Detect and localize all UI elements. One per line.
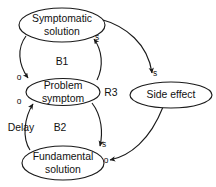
loop-label-b1: B1 — [56, 56, 69, 67]
node-label-line2: solution — [45, 164, 81, 175]
loop-label-b2: B2 — [54, 122, 67, 133]
link-symptomatic-to-side-effect — [100, 19, 152, 73]
polarity-label-s-symptomatic-in: s — [95, 32, 99, 42]
link-side-effect-to-fundamental — [110, 107, 163, 160]
node-label-line1: Problem — [44, 80, 83, 91]
delay-annotation: Delay — [8, 122, 35, 133]
node-label-line2: solution — [44, 26, 80, 37]
link-problem-to-fundamental — [92, 103, 101, 146]
node-problem-symptom[interactable]: Problem symptom — [26, 79, 100, 106]
node-side-effect[interactable]: Side effect — [130, 82, 212, 108]
node-label-line1: Symptomatic — [32, 13, 92, 24]
node-symptomatic-solution[interactable]: Symptomatic solution — [19, 8, 105, 42]
polarity-label-o-fundamental-side: o — [104, 155, 109, 165]
polarity-label-s-side-effect-in: s — [153, 68, 157, 78]
loop-label-r3: R3 — [104, 87, 118, 98]
polarity-label-o-problem-lower: o — [17, 96, 22, 106]
polarity-label-s-fundamental-in: s — [102, 139, 106, 149]
polarity-label-o-problem-upper: o — [17, 72, 22, 82]
causal-loop-diagram: Symptomatic solution Problem symptom Fun… — [0, 0, 216, 187]
diagram-canvas: Symptomatic solution Problem symptom Fun… — [0, 0, 216, 187]
node-label-line1: Fundamental — [33, 151, 94, 162]
node-fundamental-solution[interactable]: Fundamental solution — [22, 146, 104, 180]
link-problem-to-symptomatic — [94, 39, 101, 80]
node-label-line2: symptom — [42, 93, 84, 104]
node-label-line1: Side effect — [147, 89, 196, 100]
